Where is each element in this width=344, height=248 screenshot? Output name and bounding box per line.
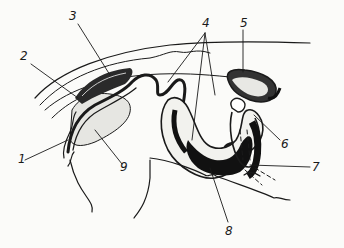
anatomical-figure: 1 2 3 4 5 6 7 8 9: [0, 0, 344, 248]
label-9: 9: [120, 161, 128, 173]
label-5: 5: [240, 17, 248, 29]
drawing: [0, 0, 344, 248]
label-6: 6: [281, 138, 289, 150]
label-8: 8: [225, 225, 233, 237]
lower-left-contour: [134, 160, 150, 218]
label-3: 3: [69, 10, 77, 22]
connection-bulb: [231, 98, 245, 112]
label-7: 7: [312, 161, 320, 173]
left-lower-contour: [70, 160, 92, 212]
label-1: 1: [18, 153, 26, 165]
label-2: 2: [20, 50, 28, 62]
label-4: 4: [202, 17, 210, 29]
